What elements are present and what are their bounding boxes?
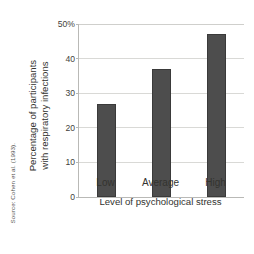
bar-chart-figure: Source: Cohen et al. (1993). Percentage … <box>0 0 254 254</box>
x-axis-title: Level of psychological stress <box>78 196 243 207</box>
y-tick-label-40: 40 <box>65 54 75 64</box>
y-tickmark-10 <box>76 162 79 163</box>
y-tick-label-20: 20 <box>65 123 75 133</box>
y-axis-title-line1: Percentage of participants <box>27 28 39 204</box>
x-tick-label-low: Low <box>96 177 114 188</box>
y-axis-title: Percentage of participants with respirat… <box>27 28 50 204</box>
y-tickmark-30 <box>76 93 79 94</box>
x-tick-label-high: High <box>205 177 226 188</box>
gridline-50 <box>79 24 244 25</box>
y-tickmark-20 <box>76 127 79 128</box>
x-tick-label-average: Average <box>142 177 179 188</box>
y-tick-label-0: 0 <box>70 192 75 202</box>
y-tickmark-50 <box>76 24 79 25</box>
y-tick-label-10: 10 <box>65 157 75 167</box>
y-tick-label-50: 50% <box>58 19 75 29</box>
y-axis-title-line2: with respiratory infections <box>39 28 51 204</box>
y-tick-label-30: 30 <box>65 88 75 98</box>
plot-area: 01020304050% <box>78 24 243 197</box>
y-tickmark-40 <box>76 58 79 59</box>
source-citation: Source: Cohen et al. (1993). <box>9 104 16 224</box>
bar-high <box>207 34 226 197</box>
